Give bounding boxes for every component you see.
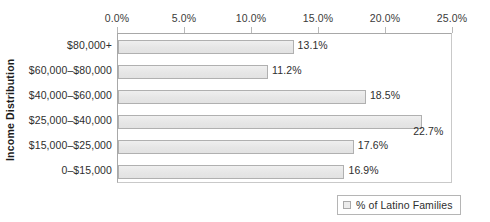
x-axis-tick-label: 25.0% bbox=[437, 12, 467, 24]
x-axis-tick-label: 15.0% bbox=[303, 12, 333, 24]
bar-value-label: 11.2% bbox=[272, 64, 302, 76]
bar-chart: 0.0%5.0%10.0%15.0%20.0%25.0% Income Dist… bbox=[0, 0, 490, 222]
bar-value-label: 16.9% bbox=[348, 164, 378, 176]
x-axis-tick-label: 0.0% bbox=[105, 12, 129, 24]
y-axis-category-label: $80,000+ bbox=[0, 39, 112, 51]
bar bbox=[118, 40, 294, 54]
bar-value-label: 13.1% bbox=[298, 39, 328, 51]
x-axis-tick-label: 20.0% bbox=[370, 12, 400, 24]
y-axis-category-label: $40,000–$60,000 bbox=[0, 89, 112, 101]
chart-legend[interactable]: % of Latino Families bbox=[337, 195, 461, 215]
plot-area bbox=[117, 33, 452, 183]
bar bbox=[118, 90, 366, 104]
y-axis-category-label: $60,000–$80,000 bbox=[0, 64, 112, 76]
legend-label: % of Latino Families bbox=[356, 199, 453, 211]
x-axis-tick-mark bbox=[452, 27, 453, 33]
y-axis-category-label: 0–$15,000 bbox=[0, 164, 112, 176]
bar bbox=[118, 165, 344, 179]
y-axis-category-label: $25,000–$40,000 bbox=[0, 114, 112, 126]
bar-value-label: 18.5% bbox=[370, 89, 400, 101]
bar bbox=[118, 115, 422, 129]
x-axis-tick-label: 5.0% bbox=[172, 12, 196, 24]
bar bbox=[118, 140, 354, 154]
x-axis-tick-label: 10.0% bbox=[236, 12, 266, 24]
y-axis-category-label: $15,000–$25,000 bbox=[0, 139, 112, 151]
bar-value-label: 22.7% bbox=[413, 125, 443, 137]
bar bbox=[118, 65, 268, 79]
legend-swatch-icon bbox=[343, 201, 351, 209]
bar-value-label: 17.6% bbox=[358, 139, 388, 151]
